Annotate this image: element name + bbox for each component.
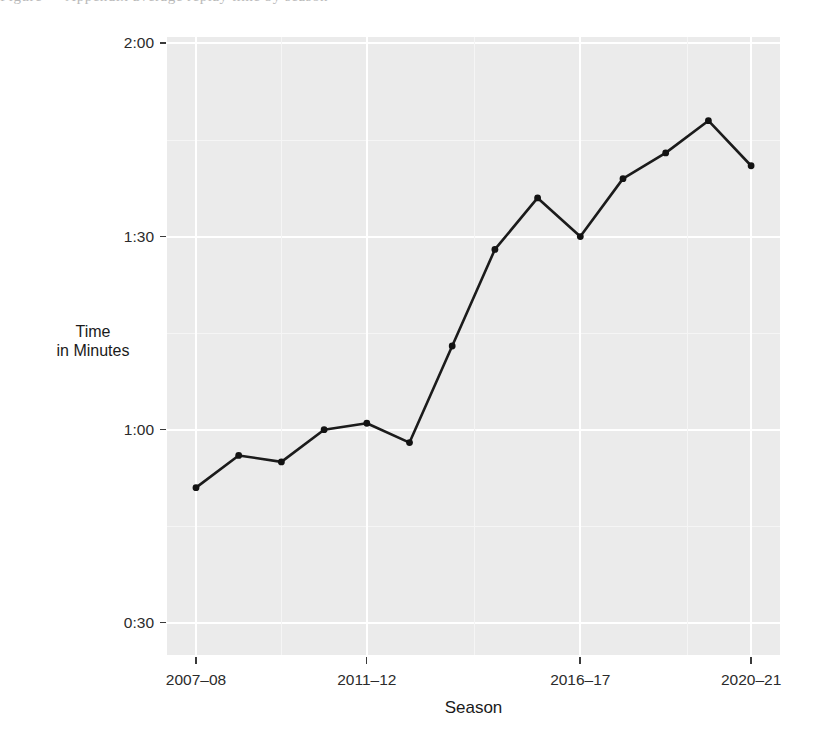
y-tick-mark bbox=[160, 429, 166, 431]
x-tick-label: 2016–17 bbox=[520, 672, 640, 688]
data-line-average-time bbox=[196, 121, 751, 488]
data-point bbox=[235, 452, 242, 459]
data-point bbox=[278, 458, 285, 465]
x-tick-label: 2011–12 bbox=[307, 672, 427, 688]
y-axis-title-line-2: in Minutes bbox=[24, 341, 162, 360]
chart-figure: Figure — Appendix average replay time by… bbox=[0, 0, 814, 736]
x-tick-mark bbox=[195, 657, 197, 664]
data-point bbox=[534, 195, 541, 202]
y-axis-title: Time in Minutes bbox=[24, 322, 162, 360]
data-point bbox=[449, 343, 456, 350]
data-point bbox=[705, 117, 712, 124]
y-tick-mark bbox=[160, 622, 166, 624]
y-tick-label: 1:00 bbox=[124, 422, 154, 438]
y-tick-mark bbox=[160, 42, 166, 44]
x-tick-label: 2020–21 bbox=[691, 672, 811, 688]
data-point bbox=[193, 484, 200, 491]
data-series-layer bbox=[167, 37, 780, 655]
data-point bbox=[492, 246, 499, 253]
y-axis-title-line-1: Time bbox=[24, 322, 162, 341]
y-tick-label: 1:30 bbox=[124, 229, 154, 245]
data-point bbox=[406, 439, 413, 446]
y-tick-label: 2:00 bbox=[124, 35, 154, 51]
x-tick-mark bbox=[366, 657, 368, 664]
plot-panel bbox=[167, 37, 780, 655]
data-point bbox=[748, 162, 755, 169]
data-point bbox=[321, 426, 328, 433]
x-axis-title: Season bbox=[167, 698, 780, 718]
data-point bbox=[662, 149, 669, 156]
x-tick-mark bbox=[579, 657, 581, 664]
data-point bbox=[363, 420, 370, 427]
data-points-group bbox=[193, 117, 755, 491]
y-tick-mark bbox=[160, 236, 166, 238]
data-point bbox=[577, 233, 584, 240]
y-tick-label: 0:30 bbox=[124, 615, 154, 631]
x-tick-label: 2007–08 bbox=[136, 672, 256, 688]
x-tick-mark bbox=[750, 657, 752, 664]
cropped-caption-remnant: Figure — Appendix average replay time by… bbox=[0, 0, 814, 14]
data-point bbox=[620, 175, 627, 182]
